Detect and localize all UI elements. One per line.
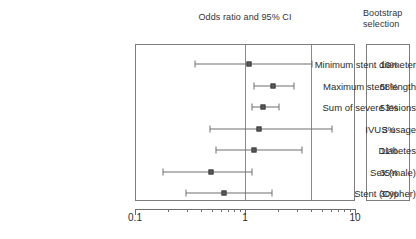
- odds-ratio-marker: [260, 105, 265, 110]
- x-tick-minor: [187, 209, 188, 212]
- x-tick-label: 10: [349, 212, 360, 223]
- ci-upper-cap: [332, 125, 333, 132]
- x-tick-minor: [344, 209, 345, 212]
- row-label: Maximum stent length: [288, 80, 416, 91]
- x-tick-minor: [278, 209, 279, 212]
- x-tick-minor: [228, 209, 229, 212]
- ci-upper-cap: [312, 61, 313, 68]
- confidence-interval-line: [195, 64, 313, 65]
- ci-lower-cap: [251, 104, 252, 111]
- bootstrap-title-line-2: selection: [363, 19, 415, 30]
- ci-upper-cap: [271, 190, 272, 197]
- ci-lower-cap: [163, 168, 164, 175]
- forest-plot-figure: Odds ratio and 95% CI Bootstrap selectio…: [0, 0, 416, 239]
- x-tick-minor: [212, 209, 213, 212]
- ci-upper-cap: [294, 82, 295, 89]
- odds-ratio-marker: [222, 191, 227, 196]
- x-tick-minor: [350, 209, 351, 212]
- x-tick-minor: [311, 209, 312, 212]
- row-label: Stent (Cypher): [288, 188, 416, 199]
- row-label: Sex (male): [288, 166, 416, 177]
- x-tick-minor: [234, 209, 235, 212]
- x-tick-minor: [331, 209, 332, 212]
- x-tick-minor: [338, 209, 339, 212]
- confidence-interval-line: [216, 150, 302, 151]
- x-tick-minor: [240, 209, 241, 212]
- confidence-interval-line: [252, 107, 280, 108]
- odds-ratio-marker: [257, 126, 262, 131]
- odds-ratio-marker: [208, 169, 213, 174]
- odds-ratio-marker: [246, 62, 251, 67]
- bootstrap-column-title: Bootstrap selection: [363, 8, 415, 30]
- odds-ratio-marker: [271, 83, 276, 88]
- ci-upper-cap: [302, 147, 303, 154]
- ci-lower-cap: [185, 190, 186, 197]
- ci-lower-cap: [209, 125, 210, 132]
- x-tick-minor: [168, 209, 169, 212]
- x-tick-minor: [322, 209, 323, 212]
- ci-upper-cap: [279, 104, 280, 111]
- row-label: Diabetes: [288, 145, 416, 156]
- x-tick-minor: [221, 209, 222, 212]
- x-tick-minor: [297, 209, 298, 212]
- x-tick-label: 1: [242, 212, 248, 223]
- ci-lower-cap: [253, 82, 254, 89]
- confidence-interval-line: [163, 171, 252, 172]
- confidence-interval-line: [210, 128, 332, 129]
- reference-line-1: [245, 45, 246, 200]
- bootstrap-title-line-1: Bootstrap: [363, 8, 415, 19]
- odds-ratio-marker: [251, 148, 256, 153]
- ci-lower-cap: [194, 61, 195, 68]
- x-tick-label: 0.1: [128, 212, 142, 223]
- ci-upper-cap: [251, 168, 252, 175]
- confidence-interval-line: [186, 193, 272, 194]
- ci-lower-cap: [216, 147, 217, 154]
- plot-title: Odds ratio and 95% CI: [135, 12, 355, 22]
- row-label: Sum of severe lesions: [288, 102, 416, 113]
- x-tick-minor: [201, 209, 202, 212]
